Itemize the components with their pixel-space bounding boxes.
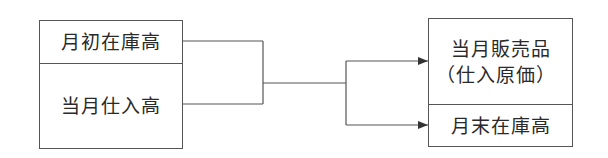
monthly-purchases-label: 当月仕入高 [61, 93, 161, 119]
opening-inventory-cell: 月初在庫高 [40, 21, 182, 63]
right-box-outputs: 当月販売品 （仕入原価） 月末在庫高 [428, 18, 573, 147]
closing-inventory-label: 月末在庫高 [451, 113, 551, 139]
closing-inventory-cell: 月末在庫高 [429, 105, 572, 146]
opening-inventory-label: 月初在庫高 [61, 29, 161, 55]
left-box-inputs: 月初在庫高 当月仕入高 [39, 20, 183, 149]
cost-of-sales-cell: 当月販売品 （仕入原価） [429, 19, 572, 104]
monthly-purchases-cell: 当月仕入高 [40, 64, 182, 148]
cost-of-sales-label-line2: （仕入原価） [436, 62, 556, 88]
cost-of-sales-label-line1: 当月販売品 [451, 36, 551, 62]
